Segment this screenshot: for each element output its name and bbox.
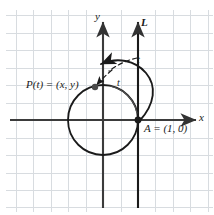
x-axis-label: x bbox=[199, 112, 204, 123]
point-P-label: P(t) = (x, y) bbox=[26, 79, 79, 90]
arc-outer-t-label: t bbox=[137, 55, 140, 65]
dashed-connector-lower bbox=[97, 70, 113, 85]
point-P-dot bbox=[92, 84, 98, 90]
point-A-label: A = (1, 0) bbox=[144, 123, 187, 134]
grid-lines bbox=[6, 10, 213, 212]
diagram-canvas bbox=[0, 0, 214, 215]
wrapping-arc bbox=[101, 60, 153, 121]
arc-inner-t-label: t bbox=[117, 78, 120, 88]
y-axis-label: y bbox=[95, 11, 100, 22]
arc-length-t-on-circle bbox=[110, 86, 137, 113]
line-L-label: L bbox=[141, 17, 148, 28]
wrapping-function-diagram: P(t) = (x, y) A = (1, 0) L y x t t bbox=[0, 0, 214, 215]
point-A-dot bbox=[135, 117, 142, 124]
